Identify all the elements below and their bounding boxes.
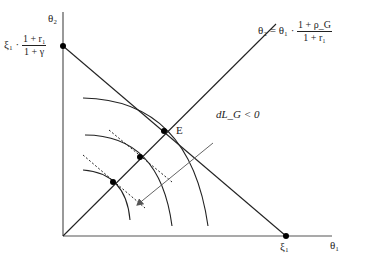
- indifference-curve-inner: [83, 170, 130, 220]
- point-y-intercept: [60, 43, 66, 49]
- y-axis-label: θ₂: [48, 13, 57, 24]
- y-intercept-fraction: 1 + r₁ 1 + γ: [22, 34, 46, 57]
- x-axis-label: θ₁: [330, 240, 339, 251]
- ray-denominator: 1 + r₁: [303, 32, 325, 43]
- y-intercept-numerator: 1 + r₁: [22, 34, 46, 46]
- ray-numerator: 1 + ρ_G: [297, 20, 332, 32]
- y-intercept-denominator: 1 + γ: [24, 46, 44, 57]
- ray-fraction: 1 + ρ_G 1 + r₁: [297, 20, 332, 43]
- point-equilibrium: [161, 128, 167, 134]
- x-intercept-label: ξ₁: [280, 241, 289, 252]
- y-intercept-label: ξ₁ · 1 + r₁ 1 + γ: [4, 34, 46, 57]
- point-middle: [137, 154, 143, 160]
- ray-prefix: θ₂ = θ₁ ·: [258, 24, 294, 36]
- point-x-intercept: [283, 233, 289, 239]
- ray-equation-label: θ₂ = θ₁ · 1 + ρ_G 1 + r₁: [258, 20, 332, 43]
- arrow-label: dL_G < 0: [216, 109, 259, 120]
- ray-line: [63, 24, 276, 236]
- budget-line: [63, 46, 286, 236]
- point-inner: [110, 179, 116, 185]
- equilibrium-label: E: [176, 125, 183, 136]
- y-intercept-prefix: ξ₁ ·: [4, 38, 19, 50]
